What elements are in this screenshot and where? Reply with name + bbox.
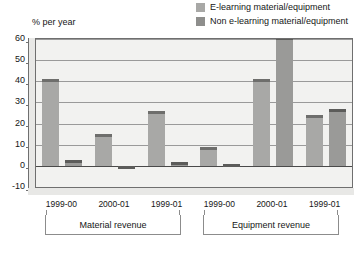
- y-tick-label: 10: [3, 140, 25, 149]
- gridline-60: [36, 39, 352, 40]
- legend-swatch-e-learning: [196, 3, 205, 12]
- bar-top-cap: [329, 109, 346, 112]
- gridline-40: [36, 81, 352, 82]
- x-tick-label: 1999-01: [298, 199, 351, 209]
- bar-top-cap: [65, 160, 82, 163]
- y-tick-label: 50: [3, 55, 25, 64]
- bar-series1-2000-01: [95, 134, 112, 166]
- bar-body: [200, 149, 217, 166]
- y-axis-ticks: 6050403020100-10: [0, 38, 25, 195]
- y-tick-label: 20: [3, 119, 25, 128]
- bar-body: [42, 81, 59, 166]
- bar-body: [306, 117, 323, 166]
- plot-area: [35, 38, 353, 188]
- x-tick-label: 2000-01: [88, 199, 141, 209]
- bar-top-cap: [306, 115, 323, 118]
- bar-series2-1999-00: [223, 164, 240, 167]
- y-tick-label: 0: [3, 161, 25, 170]
- x-tick-label: 1999-00: [193, 199, 246, 209]
- bar-body: [329, 111, 346, 166]
- chart-legend: E-learning material/equipment Non e-lear…: [196, 1, 348, 27]
- bar-series2-1999-00: [65, 160, 82, 166]
- bracket-tick-right: [179, 210, 180, 215]
- gridline-50: [36, 60, 352, 61]
- group-brackets: Material revenueEquipment revenue: [28, 215, 354, 241]
- bar-top-cap: [171, 162, 188, 165]
- legend-item-e-learning: E-learning material/equipment: [196, 1, 348, 13]
- y-tick-label: 30: [3, 97, 25, 106]
- plot-frame: [28, 38, 354, 195]
- bracket-tick-right: [337, 210, 338, 215]
- y-axis-title: % per year: [32, 17, 76, 27]
- bar-series1-2000-01: [253, 79, 270, 166]
- bar-top-cap: [200, 147, 217, 150]
- bar-top-cap: [276, 38, 293, 40]
- group-label: Equipment revenue: [229, 220, 313, 230]
- bar-series2-2000-01: [118, 166, 135, 169]
- legend-label-non-e-learning: Non e-learning material/equipment: [210, 16, 348, 26]
- chart-container: E-learning material/equipment Non e-lear…: [0, 0, 361, 270]
- group-label: Material revenue: [76, 220, 149, 230]
- bar-series1-1999-00: [42, 79, 59, 166]
- legend-label-e-learning: E-learning material/equipment: [210, 2, 330, 12]
- bracket-tick-left: [46, 210, 47, 215]
- gridline-0: [36, 166, 352, 167]
- bar-top-cap: [223, 164, 240, 167]
- group-bracket-2: Equipment revenue: [203, 215, 339, 235]
- bar-series2-1999-01: [171, 162, 188, 166]
- y-tick-label: -10: [3, 182, 25, 191]
- bar-top-cap: [148, 111, 165, 114]
- bracket-tick-left: [204, 210, 205, 215]
- gridline-20: [36, 124, 352, 125]
- bar-top-cap: [42, 79, 59, 82]
- bar-top-cap: [95, 134, 112, 137]
- gridline-10: [36, 145, 352, 146]
- legend-item-non-e-learning: Non e-learning material/equipment: [196, 15, 348, 27]
- bar-series2-2000-01: [276, 38, 293, 166]
- bar-body: [95, 136, 112, 166]
- x-axis-labels: 1999-002000-011999-011999-002000-011999-…: [28, 199, 354, 213]
- axis-shoulder-bottom: [28, 188, 354, 195]
- x-tick-label: 1999-00: [35, 199, 88, 209]
- bar-top-cap: [253, 79, 270, 82]
- gridline-30: [36, 102, 352, 103]
- y-tick-label: 40: [3, 76, 25, 85]
- bar-series1-1999-01: [306, 115, 323, 166]
- bar-top-cap: [118, 166, 135, 169]
- bar-body: [276, 39, 293, 166]
- bar-body: [253, 81, 270, 166]
- bar-series1-1999-00: [200, 147, 217, 166]
- x-tick-label: 2000-01: [246, 199, 299, 209]
- group-bracket-1: Material revenue: [45, 215, 181, 235]
- legend-swatch-non-e-learning: [196, 17, 205, 26]
- x-tick-label: 1999-01: [140, 199, 193, 209]
- bar-series2-1999-01: [329, 109, 346, 166]
- y-tick-label: 60: [3, 34, 25, 43]
- bar-series1-1999-01: [148, 111, 165, 166]
- bar-body: [148, 113, 165, 166]
